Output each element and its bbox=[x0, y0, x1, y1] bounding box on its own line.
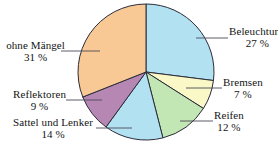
slice-label-reflektoren-name: Reflektoren bbox=[13, 88, 66, 100]
slice-label-beleuchtung-name: Beleuchtung bbox=[229, 25, 278, 37]
slice-label-sattel-und-lenker: Sattel und Lenker 14 % bbox=[13, 116, 93, 140]
pie-slices-group bbox=[78, 4, 214, 140]
slice-label-reflektoren-value: 9 % bbox=[13, 100, 66, 112]
slice-label-reifen: Reifen 12 % bbox=[214, 109, 244, 133]
slice-label-ohne-maengel-value: 31 % bbox=[6, 51, 65, 63]
slice-label-ohne-maengel-name: ohne Mängel bbox=[6, 39, 65, 51]
slice-label-beleuchtung: Beleuchtung 27 % bbox=[229, 25, 278, 49]
slice-label-bremsen-name: Bremsen bbox=[223, 76, 263, 88]
slice-label-sattel-und-lenker-name: Sattel und Lenker bbox=[13, 116, 93, 128]
pie-slice-beleuchtung bbox=[146, 4, 214, 81]
slice-label-bremsen-value: 7 % bbox=[223, 88, 263, 100]
slice-label-ohne-maengel: ohne Mängel 31 % bbox=[6, 39, 65, 63]
slice-label-beleuchtung-value: 27 % bbox=[229, 37, 278, 49]
slice-label-sattel-und-lenker-value: 14 % bbox=[13, 128, 93, 140]
slice-label-bremsen: Bremsen 7 % bbox=[223, 76, 263, 100]
slice-label-reifen-value: 12 % bbox=[214, 121, 244, 133]
slice-label-reflektoren: Reflektoren 9 % bbox=[13, 88, 66, 112]
slice-label-reifen-name: Reifen bbox=[214, 109, 244, 121]
pie-chart: Beleuchtung 27 % Bremsen 7 % Reifen 12 %… bbox=[0, 0, 278, 143]
